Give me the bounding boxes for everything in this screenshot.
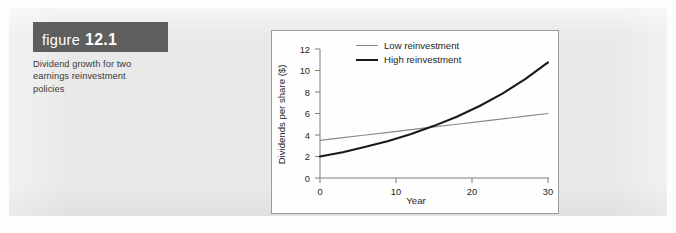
y-axis-title: Dividends per share ($) bbox=[276, 50, 287, 180]
legend-label-low: Low reinvestment bbox=[384, 40, 459, 51]
y-tick-label: 6 bbox=[305, 109, 310, 119]
x-axis-ticks bbox=[320, 178, 548, 183]
figure-caption: Dividend growth for two earnings reinves… bbox=[33, 58, 153, 95]
figure-banner: figure12.1 bbox=[33, 22, 168, 52]
y-tick-label: 0 bbox=[305, 174, 310, 184]
figure-page: figure12.1 Dividend growth for two earni… bbox=[0, 0, 676, 233]
chart-plot-area: 12 10 8 6 4 2 0 bbox=[272, 31, 558, 213]
legend-swatch-high-icon bbox=[356, 59, 378, 61]
legend-item-high-reinvestment: High reinvestment bbox=[356, 53, 461, 66]
figure-label-block: figure12.1 Dividend growth for two earni… bbox=[33, 22, 173, 95]
y-tick-label: 2 bbox=[305, 152, 310, 162]
legend-item-low-reinvestment: Low reinvestment bbox=[356, 39, 461, 52]
x-axis-title: Year bbox=[272, 195, 560, 206]
legend-swatch-low-icon bbox=[356, 45, 378, 46]
chart-frame: 12 10 8 6 4 2 0 bbox=[271, 30, 559, 214]
y-axis-tick-labels: 12 10 8 6 4 2 0 bbox=[300, 45, 310, 184]
y-tick-label: 4 bbox=[305, 131, 310, 141]
figure-label-word: figure bbox=[42, 32, 80, 48]
y-tick-label: 8 bbox=[305, 88, 310, 98]
figure-banner-text: figure12.1 bbox=[42, 31, 117, 49]
scanned-page-panel: figure12.1 Dividend growth for two earni… bbox=[9, 8, 667, 216]
series-line-high-reinvestment bbox=[320, 62, 548, 156]
y-tick-label: 12 bbox=[300, 45, 310, 55]
figure-label-number: 12.1 bbox=[85, 31, 117, 48]
y-axis-ticks bbox=[315, 49, 320, 178]
legend-label-high: High reinvestment bbox=[384, 54, 461, 65]
chart-legend: Low reinvestment High reinvestment bbox=[356, 39, 461, 67]
y-tick-label: 10 bbox=[300, 66, 310, 76]
